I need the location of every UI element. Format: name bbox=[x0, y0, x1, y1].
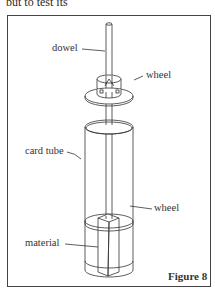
label-material: material bbox=[25, 237, 59, 248]
label-wheel-top: wheel bbox=[146, 69, 171, 80]
top-wheel-icon bbox=[85, 75, 133, 106]
figure-caption: Figure 8 bbox=[168, 270, 207, 282]
card-tube-icon bbox=[85, 120, 133, 277]
material-block-icon bbox=[98, 214, 119, 276]
label-dowel: dowel bbox=[52, 42, 78, 53]
material-leader bbox=[65, 244, 98, 247]
card-tube-leader bbox=[67, 152, 81, 159]
dowel-leader bbox=[82, 49, 105, 51]
wheel-top-leader bbox=[134, 76, 143, 80]
label-wheel-bottom: wheel bbox=[154, 202, 179, 213]
label-card-tube: card tube bbox=[25, 145, 64, 156]
